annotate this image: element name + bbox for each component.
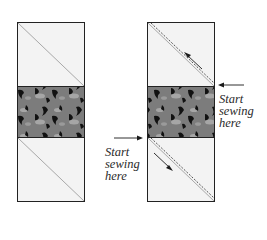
right-panel	[148, 23, 215, 202]
start-sewing-label-left: Start sewing here	[105, 146, 140, 182]
start-sewing-label-right: Start sewing here	[219, 93, 254, 129]
label-line: here	[219, 117, 254, 129]
label-line: here	[105, 170, 140, 182]
arrow-head-icon	[137, 136, 143, 141]
left-panel	[18, 23, 85, 202]
right-fabric-band	[148, 87, 215, 138]
left-fabric-band	[18, 87, 85, 138]
arrow-head-icon	[218, 83, 224, 88]
